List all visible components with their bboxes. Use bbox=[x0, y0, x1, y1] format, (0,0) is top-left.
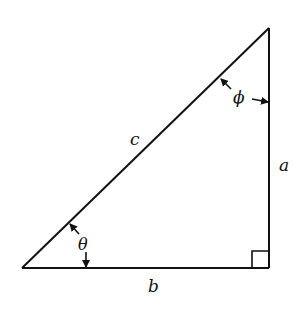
label-b: b bbox=[148, 276, 159, 296]
phi-arrow-right bbox=[252, 99, 268, 102]
label-phi: ϕ bbox=[233, 87, 245, 107]
right-triangle-diagram: c a b θ ϕ bbox=[0, 0, 307, 310]
label-c: c bbox=[130, 129, 140, 149]
label-theta: θ bbox=[78, 235, 88, 254]
label-a: a bbox=[279, 155, 289, 175]
diagram-canvas: c a b θ ϕ bbox=[0, 0, 307, 310]
theta-arrow-upper bbox=[70, 224, 79, 234]
right-angle-marker bbox=[252, 251, 269, 268]
phi-arrow-left bbox=[221, 79, 231, 89]
hypotenuse-line bbox=[22, 28, 269, 268]
